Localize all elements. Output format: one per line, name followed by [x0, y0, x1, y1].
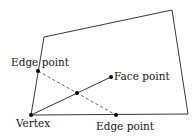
midpoint-dot — [75, 91, 79, 95]
face-point-label: Face point — [114, 71, 170, 82]
edge-point-bottom-label: Edge point — [96, 121, 154, 132]
face-point-dot — [109, 75, 113, 79]
edge-point-left-label: Edge point — [11, 57, 69, 68]
edge-point-left-dot — [36, 69, 40, 73]
vertex-to-face-line — [31, 77, 111, 115]
edge-point-bottom-dot — [114, 113, 118, 117]
vertex-label: Vertex — [16, 118, 50, 129]
